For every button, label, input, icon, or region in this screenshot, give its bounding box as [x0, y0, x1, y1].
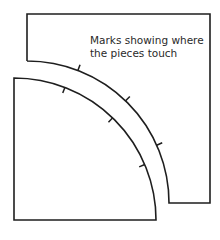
match-mark-3: [157, 143, 162, 145]
match-mark-2: [126, 97, 130, 101]
match-mark-3: [139, 165, 145, 167]
match-mark-2: [108, 118, 112, 122]
caption-line-1: Marks showing where: [90, 34, 204, 47]
outer-piece-match-marks: [78, 65, 162, 145]
inner-quarter-circle-piece: [14, 78, 156, 220]
caption-line-2: the pieces touch: [90, 47, 204, 60]
match-mark-1: [63, 87, 65, 93]
inner-piece-match-marks: [63, 87, 145, 166]
caption: Marks showing where the pieces touch: [90, 34, 204, 60]
match-mark-1: [78, 65, 80, 71]
